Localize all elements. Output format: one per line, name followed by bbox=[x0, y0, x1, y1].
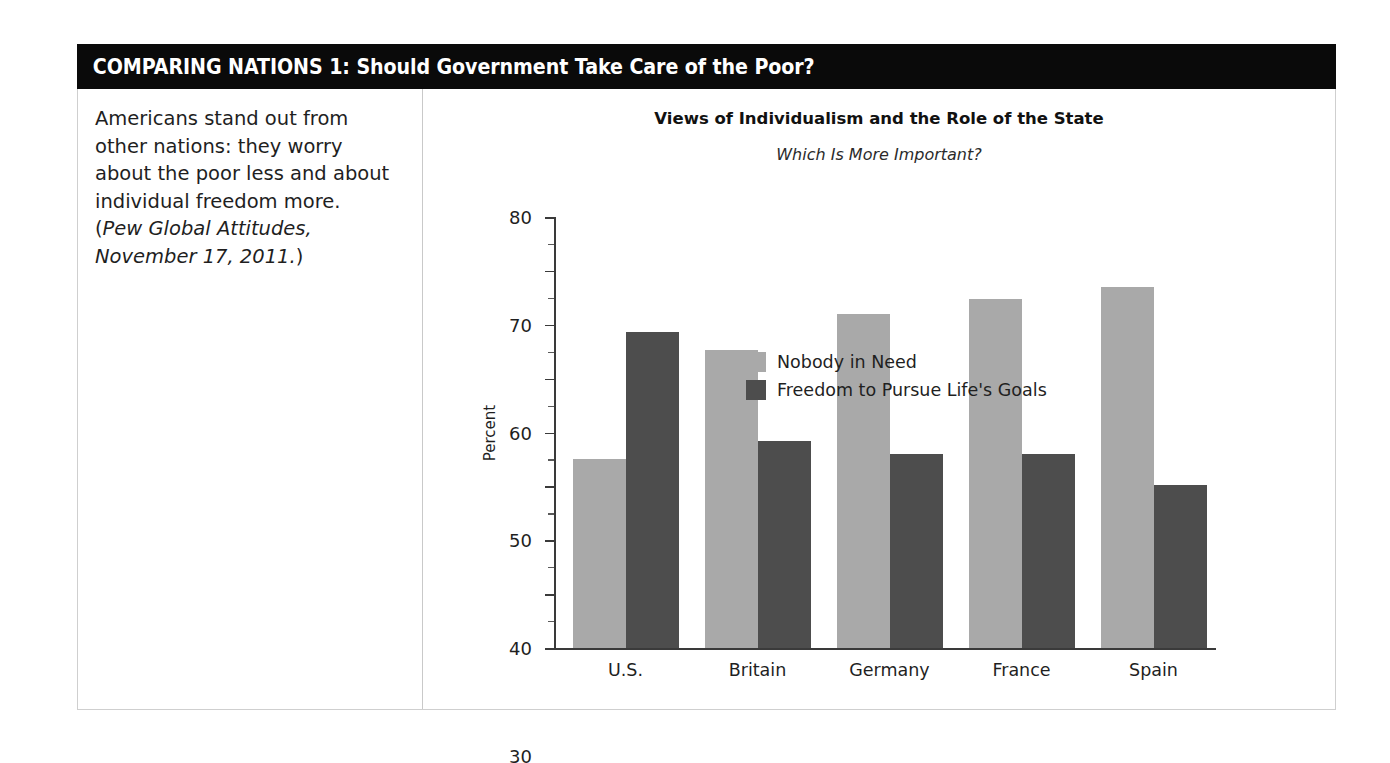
bar-group bbox=[1101, 217, 1207, 648]
bar bbox=[1154, 485, 1207, 648]
caption-pane: Americans stand out from other nations: … bbox=[78, 89, 423, 709]
y-tick-label: 70 bbox=[509, 314, 532, 335]
y-tick-minor bbox=[548, 352, 554, 353]
x-axis-line bbox=[554, 648, 1216, 650]
y-tick-label: 50 bbox=[509, 530, 532, 551]
caption-source-paren-close: ) bbox=[296, 245, 304, 268]
bar-group bbox=[705, 217, 811, 648]
legend-label-nobody-in-need: Nobody in Need bbox=[777, 352, 917, 372]
legend-swatch-icon-freedom-to-pursue bbox=[746, 380, 766, 400]
plot-area: Percent 01020304050607080 U.S.BritainGer… bbox=[554, 217, 1214, 648]
x-tick-label: U.S. bbox=[608, 660, 643, 680]
y-tick-major: 20 bbox=[545, 540, 554, 542]
y-tick-major: 40 bbox=[545, 433, 554, 435]
y-tick-major: 10 bbox=[545, 594, 554, 596]
y-tick-minor bbox=[548, 513, 554, 514]
legend-item-series-b: Freedom to Pursue Life's Goals bbox=[746, 380, 1047, 400]
figure-container: COMPARING NATIONS 1: Should Government T… bbox=[77, 44, 1336, 710]
bar bbox=[1101, 287, 1154, 648]
x-tick-label: Britain bbox=[729, 660, 787, 680]
bar bbox=[758, 441, 811, 648]
y-tick-minor bbox=[548, 244, 554, 245]
caption-source-paren-open: ( bbox=[95, 217, 103, 240]
y-tick-major: 80 bbox=[545, 217, 554, 219]
y-tick-minor bbox=[548, 621, 554, 622]
x-tick-label: Germany bbox=[849, 660, 929, 680]
y-tick-major: 50 bbox=[545, 379, 554, 381]
y-axis-label: Percent bbox=[481, 404, 499, 460]
caption-source-citation: Pew Global Attitudes, November 17, 2011. bbox=[95, 217, 312, 268]
chart-subtitle: Which Is More Important? bbox=[423, 145, 1335, 164]
y-tick-minor bbox=[548, 298, 554, 299]
x-tick-label: France bbox=[992, 660, 1050, 680]
legend-label-freedom-to-pursue: Freedom to Pursue Life's Goals bbox=[777, 380, 1047, 400]
legend-item-series-a: Nobody in Need bbox=[746, 352, 1047, 372]
y-tick-major: 30 bbox=[545, 486, 554, 488]
caption-source-text: (Pew Global Attitudes, November 17, 2011… bbox=[95, 215, 402, 270]
y-tick-label: 80 bbox=[509, 207, 532, 228]
legend-swatch-icon-nobody-in-need bbox=[746, 352, 766, 372]
x-tick-label: Spain bbox=[1129, 660, 1178, 680]
y-tick-minor bbox=[548, 567, 554, 568]
chart-legend: Nobody in Need Freedom to Pursue Life's … bbox=[746, 352, 1047, 408]
bar-group bbox=[573, 217, 679, 648]
chart-title: Views of Individualism and the Role of t… bbox=[423, 109, 1335, 128]
bar-group bbox=[837, 217, 943, 648]
y-tick-label: 60 bbox=[509, 422, 532, 443]
y-tick-major: 0 bbox=[545, 648, 554, 650]
y-tick-major: 60 bbox=[545, 325, 554, 327]
figure-header-bar: COMPARING NATIONS 1: Should Government T… bbox=[77, 44, 1336, 89]
caption-body-text: Americans stand out from other nations: … bbox=[95, 105, 402, 215]
y-tick-major: 70 bbox=[545, 271, 554, 273]
y-tick-minor bbox=[548, 459, 554, 460]
chart-pane: Views of Individualism and the Role of t… bbox=[423, 89, 1335, 709]
bar bbox=[1022, 454, 1075, 648]
bar bbox=[626, 332, 679, 648]
bars-layer bbox=[556, 217, 1216, 648]
figure-body: Americans stand out from other nations: … bbox=[78, 89, 1335, 709]
bar-group bbox=[969, 217, 1075, 648]
figure-title: COMPARING NATIONS 1: Should Government T… bbox=[77, 55, 815, 79]
y-tick-minor bbox=[548, 406, 554, 407]
y-tick-label: 30 bbox=[509, 745, 532, 763]
bar bbox=[890, 454, 943, 648]
bar bbox=[573, 459, 626, 648]
y-tick-label: 40 bbox=[509, 638, 532, 659]
